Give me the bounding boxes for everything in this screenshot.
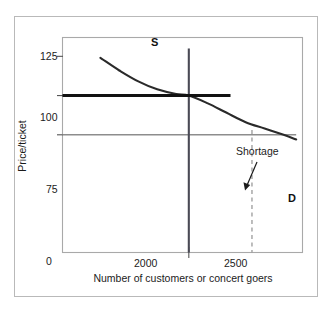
figure-root: 125 100 75 0 2000 2500 Price/ticket Numb…	[0, 0, 330, 314]
y-tick-label-0: 0	[46, 255, 52, 267]
y-tick-label-125: 125	[40, 50, 58, 62]
x-tick-label-2000: 2000	[134, 257, 157, 269]
x-tick-label-2500: 2500	[224, 257, 247, 269]
y-axis-title: Price/ticket	[16, 91, 28, 201]
shortage-annotation-label: Shortage	[236, 145, 279, 157]
y-tick-label-75: 75	[46, 183, 58, 195]
x-axis-title: Number of customers or concert goers	[62, 272, 304, 284]
top-caption	[16, 0, 316, 9]
demand-curve-label: D	[288, 192, 296, 204]
supply-curve-label: S	[151, 36, 158, 48]
y-tick-label-100: 100	[40, 111, 58, 123]
